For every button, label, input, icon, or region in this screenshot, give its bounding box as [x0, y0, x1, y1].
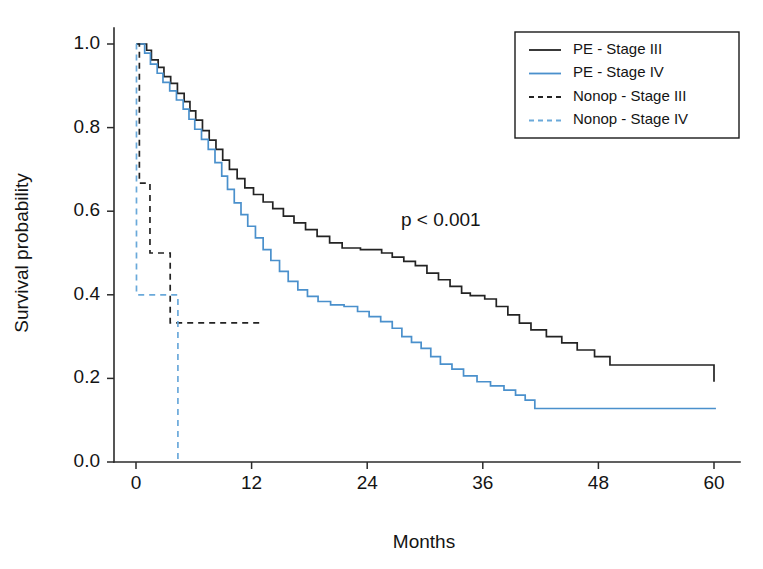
x-tick-label: 24	[357, 472, 379, 493]
y-tick-label: 0.0	[74, 450, 100, 471]
survival-chart-figure: 0.00.20.40.60.81.0 01224364860 Survival …	[0, 0, 763, 569]
y-tick-label: 0.2	[74, 366, 100, 387]
p-value-annotation: p < 0.001	[401, 209, 481, 230]
y-tick-label: 0.4	[74, 283, 101, 304]
survival-curve-nonop-stage-iii	[136, 44, 262, 323]
survival-curve-nonop-stage-iv	[136, 44, 178, 462]
x-axis-ticks: 01224364860	[131, 462, 725, 493]
legend-label-0: PE - Stage III	[573, 40, 662, 57]
y-axis-ticks: 0.00.20.40.60.81.0	[74, 32, 114, 471]
y-axis-title: Survival probability	[11, 173, 32, 333]
x-tick-label: 60	[703, 472, 724, 493]
legend-label-2: Nonop - Stage III	[573, 87, 686, 104]
y-tick-label: 0.8	[74, 116, 100, 137]
chart-legend: PE - Stage IIIPE - Stage IVNonop - Stage…	[515, 32, 739, 138]
y-tick-label: 0.6	[74, 199, 100, 220]
legend-label-1: PE - Stage IV	[573, 63, 664, 80]
x-tick-label: 36	[472, 472, 493, 493]
kaplan-meier-plot: 0.00.20.40.60.81.0 01224364860 Survival …	[0, 0, 763, 569]
legend-label-3: Nonop - Stage IV	[573, 110, 688, 127]
x-tick-label: 12	[241, 472, 262, 493]
x-tick-label: 48	[588, 472, 609, 493]
x-axis-title: Months	[393, 531, 455, 552]
y-tick-label: 1.0	[74, 32, 100, 53]
x-tick-label: 0	[131, 472, 142, 493]
